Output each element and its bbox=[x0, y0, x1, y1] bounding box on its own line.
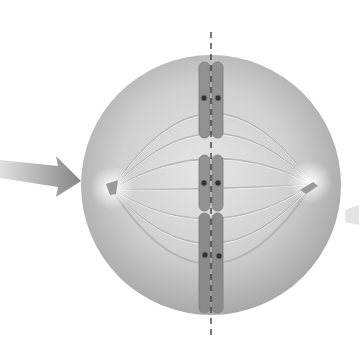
metaphase-cell-diagram bbox=[0, 0, 359, 337]
pointer-arrow-left bbox=[0, 156, 81, 197]
faint-arrow-right bbox=[345, 205, 359, 225]
centrosome-right-glow bbox=[288, 160, 332, 204]
